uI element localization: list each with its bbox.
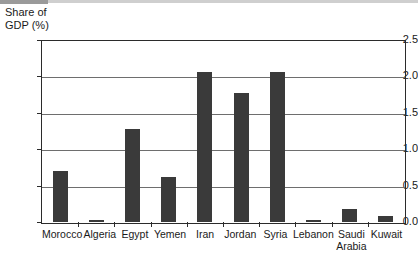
bar-cell [295, 40, 331, 222]
x-axis-tick-labels: MoroccoAlgeriaEgyptYemenIranJordanSyriaL… [42, 228, 404, 252]
x-tick-label: Lebanon [293, 228, 334, 252]
y-axis-title: Share of GDP (%) [5, 6, 49, 31]
x-tick-mark [187, 222, 188, 227]
x-tick-mark [78, 222, 79, 227]
x-tick-mark [223, 222, 224, 227]
scan-artifact-corner [0, 0, 48, 4]
x-tick-mark [368, 222, 369, 227]
scan-artifact-band [0, 0, 418, 3]
x-tick-mark [332, 222, 333, 227]
x-tick-label: Iran [188, 228, 223, 252]
bar-cell [114, 40, 150, 222]
x-tick-label: Algeria [82, 228, 117, 252]
bar-cell [42, 40, 78, 222]
x-tick-label: Morocco [42, 228, 82, 252]
x-tick-label: Yemen [152, 228, 187, 252]
bar [270, 72, 285, 222]
x-tick-mark [295, 222, 296, 227]
x-tick-label: Kuwait [369, 228, 404, 252]
bar-chart-figure: Share of GDP (%) 0.00.51.01.52.02.5 Moro… [0, 0, 418, 254]
bars-container [42, 40, 404, 222]
x-tick-mark [114, 222, 115, 227]
bar [161, 177, 176, 222]
bar [197, 72, 212, 222]
bar-cell [223, 40, 259, 222]
bar [53, 171, 68, 222]
bar-cell [368, 40, 404, 222]
bar-cell [187, 40, 223, 222]
x-tick-label: Jordan [223, 228, 258, 252]
x-axis-ticks [42, 222, 404, 227]
bar-cell [151, 40, 187, 222]
x-tick-mark [259, 222, 260, 227]
x-tick-label: Egypt [117, 228, 152, 252]
bar [234, 93, 249, 222]
bar [125, 129, 140, 222]
bar-cell [332, 40, 368, 222]
x-tick-label: Saudi Arabia [334, 228, 369, 252]
x-tick-mark [151, 222, 152, 227]
x-tick-label: Syria [258, 228, 293, 252]
bar-cell [78, 40, 114, 222]
bar-cell [259, 40, 295, 222]
bar [342, 209, 357, 222]
